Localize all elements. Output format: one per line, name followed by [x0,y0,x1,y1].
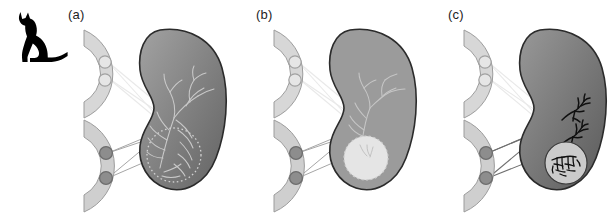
cat-silhouette-path [19,12,68,62]
panel-a: (a) [64,0,254,212]
neuron-open-1 [289,56,301,68]
kidney-b [330,29,417,189]
panel-b: (b) [254,0,444,212]
kidney-c [520,29,607,189]
neuron-filled-1 [290,147,303,160]
panel-c: (c) [444,0,612,212]
spinal-segment-lower-c [464,120,494,212]
kidney-a [140,29,227,189]
panel-label-a: (a) [68,8,85,21]
neuron-open-1 [479,56,491,68]
neuron-filled-1 [480,147,493,160]
spinal-segment-upper-b [274,30,303,118]
neuron-filled-2 [100,172,113,185]
neuron-open-1 [99,56,111,68]
renal-capsule-c [545,142,587,184]
panel-label-b: (b) [256,8,273,21]
cat-silhouette [6,6,72,68]
neuron-filled-2 [480,172,493,185]
neuron-open-2 [289,74,301,86]
renal-capsule-b [344,136,388,180]
spinal-segment-lower-a [84,120,114,212]
neuron-open-2 [479,74,491,86]
neuron-filled-2 [290,172,303,185]
neuron-filled-1 [100,147,113,160]
spinal-segment-lower-b [274,120,304,212]
panel-label-c: (c) [448,8,464,21]
spinal-segment-upper-c [464,30,493,118]
spinal-segment-upper-a [84,30,113,118]
neuron-open-2 [99,74,111,86]
